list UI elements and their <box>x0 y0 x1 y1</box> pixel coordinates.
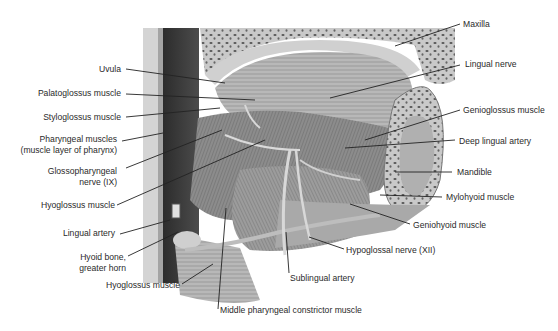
label-pharyngeal-muscles-sub: (muscle layer of pharynx) <box>21 145 117 156</box>
label-lingual-nerve: Lingual nerve <box>465 59 517 70</box>
label-geniohyoid-muscle: Geniohyoid muscle <box>413 220 486 231</box>
label-mandible: Mandible <box>457 167 492 178</box>
label-hypoglossal-nerve: Hypoglossal nerve (XII) <box>346 245 435 256</box>
label-hyoid-bone: Hyoid bone, <box>80 252 126 263</box>
anatomy-diagram: Uvula Palatoglossus muscle Styloglossus … <box>0 0 558 331</box>
label-palatoglossus-muscle: Palatoglossus muscle <box>38 88 121 99</box>
floor-of-mouth <box>275 200 430 248</box>
label-hyoglossus-muscle-upper: Hyoglossus muscle <box>41 200 115 211</box>
label-sublingual-artery: Sublingual artery <box>290 273 355 284</box>
label-hyoid-bone-sub: greater horn <box>79 263 126 274</box>
label-hyoglossus-muscle-lower: Hyoglossus muscle <box>106 280 180 291</box>
label-glossopharyngeal-nerve-sub: nerve (IX) <box>79 177 117 188</box>
label-glossopharyngeal-nerve: Glossopharyngeal <box>48 166 117 177</box>
label-genioglossus-muscle: Genioglossus muscle <box>463 105 545 116</box>
label-lingual-artery: Lingual artery <box>63 228 115 239</box>
label-deep-lingual-artery: Deep lingual artery <box>459 136 531 147</box>
label-styloglossus-muscle: Styloglossus muscle <box>43 112 121 123</box>
label-mylohyoid-muscle: Mylohyoid muscle <box>446 192 514 203</box>
label-uvula: Uvula <box>99 64 121 75</box>
label-maxilla: Maxilla <box>463 19 490 30</box>
label-middle-pharyngeal-constrictor: Middle pharyngeal constrictor muscle <box>220 305 362 316</box>
label-pharyngeal-muscles: Pharyngeal muscles <box>40 134 117 145</box>
